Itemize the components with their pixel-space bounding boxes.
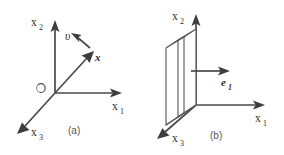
figure-container: x 2 x 1 x 3 O x υ (a): [0, 0, 284, 155]
origin-label-a: O: [37, 82, 45, 94]
axis-x1-a: [55, 89, 122, 98]
axis-label-x2-b: x: [172, 10, 178, 22]
axis-x1-b: [196, 101, 265, 110]
vector-e1: [191, 67, 230, 76]
vector-v: [71, 33, 90, 48]
slab-face-left: [166, 40, 178, 125]
arrow-head-vector-v: [71, 33, 82, 43]
slab-face-front: [178, 37, 184, 117]
axis-label-x2-b-subscript: 2: [180, 17, 184, 26]
axis-label-x1-b: x: [255, 112, 261, 124]
vector-x: [55, 51, 94, 93]
axis-label-x3-a-subscript: 3: [39, 133, 43, 142]
axis-label-x1-b-subscript: 1: [263, 119, 267, 128]
axis-label-x1-a-subscript: 1: [120, 107, 124, 116]
axis-label-x3-a: x: [31, 126, 37, 138]
panel-a: x 2 x 1 x 3 O x υ (a): [17, 16, 124, 142]
vector-label-v: υ: [65, 30, 70, 42]
axis-x2-a: [51, 20, 60, 93]
axis-label-x2-a: x: [31, 16, 37, 28]
vector-label-x: x: [94, 51, 101, 63]
caption-panel-a: (a): [68, 125, 80, 136]
axis-label-x3-b-subscript: 3: [180, 139, 184, 148]
axis-label-x1-a: x: [112, 100, 118, 112]
panel-b: x 2 x 1 x 3 e 1 (b): [157, 10, 267, 148]
axis-label-x2-a-subscript: 2: [39, 23, 43, 32]
slab-solid: [166, 29, 196, 125]
diagram-svg: x 2 x 1 x 3 O x υ (a): [0, 0, 284, 155]
axis-label-x3-b: x: [172, 132, 178, 144]
vector-label-e1-subscript: 1: [228, 83, 232, 92]
caption-panel-b: (b): [210, 130, 222, 141]
vector-label-e1: e: [221, 76, 226, 88]
